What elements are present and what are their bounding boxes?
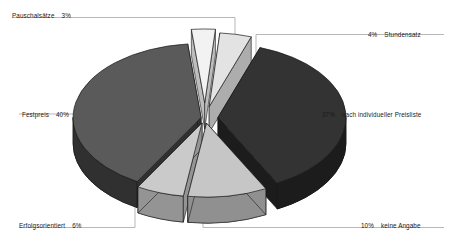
slice-label-festpreis: Festpreis40% [22,110,69,119]
slice-label-value: 6% [72,221,81,230]
slice-label-name: Stundensatz [384,30,420,39]
pie-chart-figure: Pauschalsätze3% 4%Stundensatz 37%nach in… [0,0,449,246]
slice-label-keine-angabe: 10%keine Angabe [361,221,421,230]
pie-3d-body [73,29,346,223]
slice-label-name: nach individueller Preisliste [342,110,421,119]
slice-label-name: Erfolgsorientiert [19,221,65,230]
slice-label-name: keine Angabe [381,221,421,230]
slice-label-value: 40% [56,110,69,119]
slice-label-nach-individueller-preisliste: 37%nach individueller Preisliste [322,110,421,119]
slice-label-value: 3% [62,11,71,20]
slice-label-stundensatz: 4%Stundensatz [368,30,421,39]
slice-label-pauschalsaetze: Pauschalsätze3% [12,11,71,20]
slice-label-name: Festpreis [22,110,49,119]
slice-label-value: 10% [361,221,374,230]
slice-label-erfolgsorientiert: Erfolgsorientiert6% [19,221,81,230]
slice-label-name: Pauschalsätze [12,11,55,20]
slice-label-value: 37% [322,110,335,119]
slice-label-value: 4% [368,30,377,39]
